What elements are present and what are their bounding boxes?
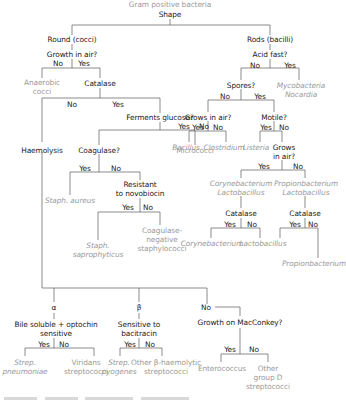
edge-label-no: No [293, 162, 303, 171]
growth-in-air-node: Growth in air? [47, 50, 97, 59]
edge-label-yes: Yes [79, 164, 91, 173]
edge-label-yes: Yes [124, 340, 136, 349]
spores-node: Spores? [227, 81, 255, 90]
alpha-label: α [52, 303, 57, 312]
result-propionbacterium-lactobacillus: PropionbacteriumLactobacillus [274, 179, 338, 197]
edge-label-no: No [308, 220, 318, 229]
rods-bacilli-node: Rods (bacilli) [247, 35, 293, 44]
edge-label-no: No [247, 220, 257, 229]
coagulase-node: Coagulase? [78, 146, 120, 155]
edge-label-no: No [213, 123, 223, 132]
edge-label-no: No [220, 92, 230, 101]
result-coagulase-negative-staphylococci: Coagulase-negativestaphylococci [137, 226, 186, 253]
result-enterococcus: Enterococcus [198, 364, 246, 373]
edge-label-no: No [111, 164, 121, 173]
ferments-glucose-node: Ferments glucose? [126, 113, 193, 122]
catalase-node: Catalase [84, 79, 115, 88]
edge-label-yes: Yes [284, 61, 296, 70]
acid-fast-node: Acid fast? [253, 50, 288, 59]
result-propionbacterium: Propionbacterium [282, 259, 346, 268]
edge-label-yes: Yes [78, 59, 90, 68]
shape-node: Shape [159, 10, 182, 19]
edge-label-yes: Yes [224, 220, 236, 229]
diagram-title: Gram positive bacteria [129, 0, 211, 9]
edge-label-no: No [67, 100, 77, 109]
result-corynebacterium: Corynebacterium [181, 239, 244, 248]
result-bacillus: Bacillus [172, 143, 200, 152]
result-other-beta-haemolytic-streptococci: Other β-haemolyticstreptococci [131, 358, 201, 376]
edge-label-no: No [250, 61, 260, 70]
figure-caption-cropped [4, 397, 189, 400]
edge-label-no: No [59, 340, 69, 349]
catalase-right-node: Catalase [289, 209, 320, 218]
edge-label-yes: Yes [289, 220, 301, 229]
motile-node: Motile? [261, 113, 287, 122]
bile-optochin-node: Bile soluble + optochinsensitive [14, 320, 97, 338]
haemolysis-node: Haemolysis [21, 146, 63, 155]
result-mycobacteria-nocardia: MycobacteriaNocardia [277, 81, 326, 99]
result-clostridium: Clostridium [203, 143, 244, 152]
edge-label-no: No [53, 59, 63, 68]
edge-label-yes: Yes [260, 123, 272, 132]
bacitracin-node: Sensitive tobacitracin [118, 320, 160, 338]
edge-label-yes: Yes [178, 122, 190, 131]
grows-in-air-node: Grows in air? [185, 113, 232, 122]
catalase-left-node: Catalase [225, 209, 256, 218]
edge-label-yes: Yes [122, 203, 134, 212]
result-staph-aureus: Staph. aureus [45, 196, 95, 205]
macconkey-node: Growth on MacConkey? [198, 318, 283, 327]
edge-label-no: No [143, 203, 153, 212]
edge-label-yes: Yes [38, 340, 50, 349]
edge-label-no: No [279, 123, 289, 132]
beta-label: β [137, 303, 142, 312]
result-staph-saprophyticus: Staph.saprophyticus [73, 241, 124, 259]
result-strep-pneumoniae: Strep.pneumoniae [2, 358, 47, 376]
edge-label-yes: Yes [192, 123, 204, 132]
result-anaerobic-cocci: Anaerobiccocci [24, 78, 60, 96]
edge-label-yes: Yes [112, 100, 124, 109]
edge-label-no: No [201, 303, 211, 312]
edge-label-yes: Yes [254, 92, 266, 101]
result-lactobacillus: Lactobacillus [240, 239, 287, 248]
result-other-group-d-streptococci: Othergroup Dstreptococci [246, 364, 290, 391]
edge-label-yes: Yes [258, 162, 270, 171]
novobiocin-node: Resistantto novobiocin [116, 180, 165, 198]
result-corynebacterium-lactobacillus: CorynebacteriumLactobacillus [210, 179, 273, 197]
round-cocci-node: Round (cocci) [48, 35, 97, 44]
grows-in-air-2-node: Growsin air? [273, 143, 296, 161]
edge-label-no: No [249, 345, 259, 354]
result-listeria: Listeria [243, 143, 269, 152]
edge-label-yes: Yes [224, 345, 236, 354]
edge-label-no: No [145, 340, 155, 349]
